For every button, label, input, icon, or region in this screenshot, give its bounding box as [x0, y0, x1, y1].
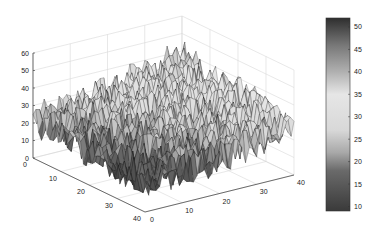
colorbar-gradient	[326, 18, 350, 211]
colorbar-tick-label: 30	[354, 113, 362, 120]
z-tick-label: 30	[21, 102, 29, 109]
surface-figure: 0102030405060 010203040 010203040 101520…	[0, 0, 380, 228]
colorbar-tick-label: 45	[354, 46, 362, 53]
colorbar: 101520253035404550	[326, 18, 362, 211]
y-tick-label: 0	[23, 161, 27, 168]
x-tick-label: 30	[260, 188, 268, 195]
y-tick-label: 30	[105, 202, 113, 209]
colorbar-tick-label: 25	[354, 136, 362, 143]
z-tick-label: 50	[21, 67, 29, 74]
y-tick-label: 10	[49, 175, 57, 182]
colorbar-tick-label: 50	[354, 23, 362, 30]
x-tick-label: 10	[185, 207, 193, 214]
y-tick-label: 20	[77, 188, 85, 195]
x-axis-ticks: 010203040	[150, 179, 305, 223]
x-axis-line	[145, 175, 294, 212]
z-tick-label: 40	[21, 85, 29, 92]
colorbar-tick-label: 10	[354, 203, 362, 210]
x-tick-label: 20	[223, 198, 231, 205]
colorbar-tick-label: 20	[354, 158, 362, 165]
x-tick-label: 40	[297, 179, 305, 186]
z-tick-label: 20	[21, 120, 29, 127]
colorbar-tick-label: 40	[354, 68, 362, 75]
z-tick-label: 10	[21, 137, 29, 144]
z-tick-label: 60	[21, 50, 29, 57]
colorbar-tick-label: 35	[354, 91, 362, 98]
x-tick-label: 0	[150, 216, 154, 223]
y-tick-label: 40	[133, 215, 141, 222]
colorbar-tick-label: 15	[354, 181, 362, 188]
surface-mesh	[33, 42, 294, 195]
